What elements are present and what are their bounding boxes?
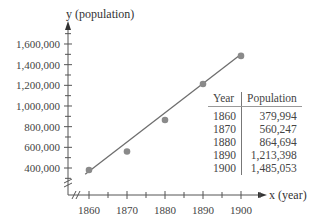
x-tick-label: 1900 xyxy=(230,204,253,216)
x-tick-label: 1860 xyxy=(78,204,101,216)
x-axis: 18601870188018901900 xyxy=(68,191,267,216)
cell-year: 1890 xyxy=(208,149,242,162)
y-axis-arrow-icon xyxy=(65,21,71,30)
table-row: 1900 1,485,053 xyxy=(208,162,302,175)
y-axis: 400,000600,000800,0001,000,0001,200,0001… xyxy=(16,21,72,195)
cell-population: 560,247 xyxy=(242,123,302,136)
cell-population: 1,485,053 xyxy=(242,162,302,175)
y-tick-label: 800,000 xyxy=(24,121,60,133)
cell-year: 1880 xyxy=(208,136,242,149)
y-axis-label: y (population) xyxy=(66,7,134,21)
data-point xyxy=(162,117,169,124)
x-axis-label: x (year) xyxy=(269,188,307,202)
cell-year: 1900 xyxy=(208,162,242,175)
cell-population: 379,994 xyxy=(242,107,302,124)
y-tick-label: 1,400,000 xyxy=(16,59,61,71)
y-tick-label: 1,600,000 xyxy=(16,38,61,50)
data-point xyxy=(124,148,131,155)
cell-population: 864,694 xyxy=(242,136,302,149)
table-header-row: Year Population xyxy=(208,92,302,107)
table-row: 1890 1,213,398 xyxy=(208,149,302,162)
y-tick-label: 1,000,000 xyxy=(16,100,61,112)
x-tick-label: 1890 xyxy=(192,204,215,216)
x-axis-arrow-icon xyxy=(258,192,267,198)
y-tick-label: 600,000 xyxy=(24,141,60,153)
cell-year: 1870 xyxy=(208,123,242,136)
header-year: Year xyxy=(208,92,242,107)
table-row: 1870 560,247 xyxy=(208,123,302,136)
population-table: Year Population 1860 379,994 1870 560,24… xyxy=(208,92,302,175)
table-row: 1860 379,994 xyxy=(208,107,302,124)
cell-year: 1860 xyxy=(208,107,242,124)
table-row: 1880 864,694 xyxy=(208,136,302,149)
data-point xyxy=(86,167,93,174)
y-tick-label: 400,000 xyxy=(24,162,60,174)
data-point xyxy=(238,53,245,60)
x-tick-label: 1870 xyxy=(116,204,139,216)
header-population: Population xyxy=(242,92,302,107)
cell-population: 1,213,398 xyxy=(242,149,302,162)
data-point xyxy=(200,81,207,88)
x-tick-label: 1880 xyxy=(154,204,177,216)
y-tick-label: 1,200,000 xyxy=(16,79,61,91)
